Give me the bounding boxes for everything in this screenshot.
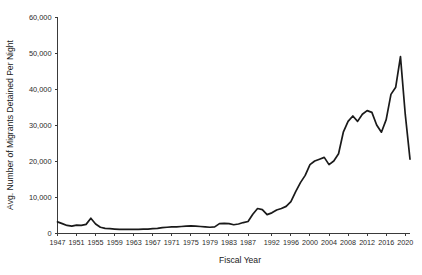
line-chart: 010,00020,00030,00040,00050,00060,000 19… [0,0,422,275]
y-tick-label: 40,000 [29,85,52,94]
x-tick-label: 2016 [378,238,394,247]
y-tick-label: 10,000 [29,193,52,202]
x-axis-title: Fiscal Year [219,255,261,265]
x-tick-label: 1987 [240,238,256,247]
x-tick-label: 1992 [264,238,280,247]
x-tick-label: 1951 [69,238,85,247]
y-tick-label: 30,000 [29,121,52,130]
x-tick-label: 1996 [283,238,299,247]
x-tick-label: 1959 [107,238,123,247]
x-tick-label: 2000 [302,238,318,247]
y-tick-label: 0 [47,229,51,238]
data-series-line [58,57,411,230]
x-tick-label: 2004 [321,238,337,247]
y-axis-tick-labels: 010,00020,00030,00040,00050,00060,000 [29,13,52,238]
x-tick-label: 2008 [340,238,356,247]
x-tick-label: 2012 [359,238,375,247]
x-tick-label: 2020 [397,238,413,247]
x-tick-label: 1963 [126,238,142,247]
x-tick-label: 1975 [183,238,199,247]
y-tick-label: 20,000 [29,157,52,166]
x-tick-label: 1971 [164,238,180,247]
x-tick-label: 1967 [145,238,161,247]
y-tick-label: 60,000 [29,13,52,22]
x-tick-label: 1955 [88,238,104,247]
chart-container: 010,00020,00030,00040,00050,00060,000 19… [0,0,422,275]
x-tick-label: 1983 [221,238,237,247]
x-tick-label: 1979 [202,238,218,247]
x-tick-label: 1947 [50,238,66,247]
y-axis-title: Avg. Number of Migrants Detained Per Nig… [5,39,15,209]
y-tick-label: 50,000 [29,49,52,58]
x-axis-tick-labels: 1947195119551959196319671971197519791983… [50,238,414,247]
